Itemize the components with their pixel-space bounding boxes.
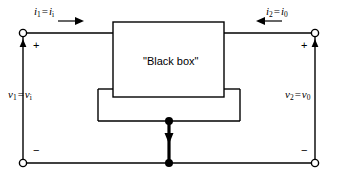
current-arrow-output-head-icon [256, 17, 265, 25]
terminal-input-positive [19, 29, 26, 36]
circuit-diagram: "Black box" i1=ii i2=i0 v1=vi v2=v0 + + … [0, 0, 338, 180]
output-voltage-symbol-2: v [302, 88, 307, 100]
input-voltage-equals: = [17, 88, 25, 100]
input-current-label: i1=ii [34, 6, 54, 17]
input-voltage-subscript-2: i [30, 93, 32, 102]
input-voltage-label: v1=vi [8, 89, 32, 100]
junction-dot-upper [165, 117, 173, 125]
common-branch [165, 121, 174, 163]
voltage-arrow-right-icon [312, 39, 319, 47]
polarity-minus-output: − [301, 145, 307, 156]
polarity-plus-input: + [33, 40, 39, 51]
voltage-arrow-left-icon [20, 39, 27, 47]
terminal-output-positive [311, 29, 318, 36]
output-current-equals: = [273, 5, 281, 17]
input-current-subscript-1: 1 [37, 10, 41, 19]
input-current-subscript-2: i [52, 10, 54, 19]
junction-dot-lower [165, 159, 173, 167]
current-arrow-input-head-icon [75, 17, 84, 25]
terminal-input-negative [19, 159, 26, 166]
output-voltage-equals: = [294, 88, 302, 100]
output-voltage-subscript-2: 0 [307, 93, 311, 102]
current-arrow-input [58, 17, 84, 25]
output-current-subscript-2: 0 [284, 10, 288, 19]
input-voltage-symbol-2: v [25, 88, 30, 100]
current-arrow-common-icon [165, 133, 174, 144]
terminal-output-negative [311, 159, 318, 166]
polarity-minus-input: − [33, 145, 39, 156]
output-current-subscript-1: 2 [269, 10, 273, 19]
polarity-plus-output: + [301, 40, 307, 51]
input-voltage-subscript-1: 1 [13, 93, 17, 102]
black-box-label: "Black box" [143, 56, 199, 67]
output-current-label: i2=i0 [266, 6, 288, 17]
output-voltage-label: v2=v0 [285, 89, 310, 100]
output-voltage-subscript-1: 2 [290, 93, 294, 102]
input-current-equals: = [41, 5, 49, 17]
